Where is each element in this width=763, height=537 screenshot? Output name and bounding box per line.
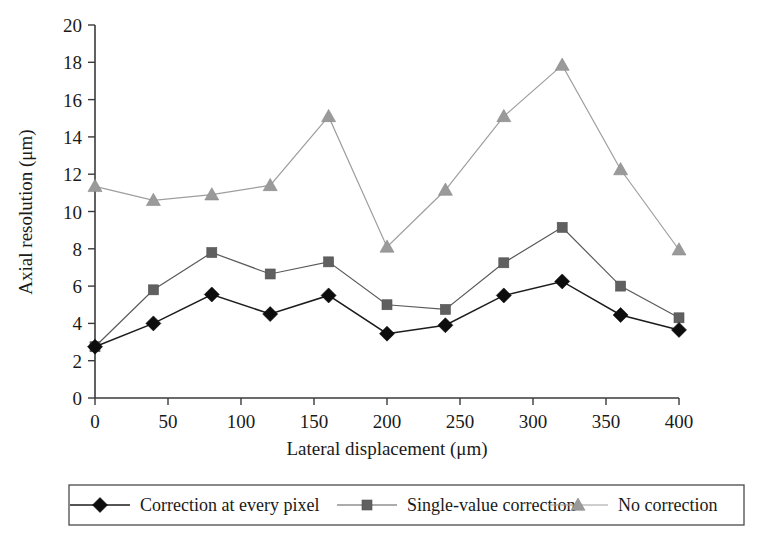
y-tick-label: 8 xyxy=(73,239,83,260)
x-tick-label: 50 xyxy=(159,411,178,432)
square-data-marker xyxy=(557,222,567,232)
chart-figure: 02468101214161820 0501001502002503003504… xyxy=(0,0,763,537)
y-tick-label: 2 xyxy=(73,351,83,372)
x-tick-label: 300 xyxy=(519,411,548,432)
square-data-marker xyxy=(440,304,450,314)
square-data-marker xyxy=(324,257,334,267)
x-tick-label: 100 xyxy=(227,411,256,432)
square-data-marker xyxy=(616,281,626,291)
legend-label: No correction xyxy=(618,495,717,515)
y-tick-label: 6 xyxy=(73,276,83,297)
square-data-marker xyxy=(382,300,392,310)
x-tick-label: 250 xyxy=(446,411,475,432)
x-tick-label: 400 xyxy=(665,411,694,432)
y-axis-title: Axial resolution (μm) xyxy=(15,129,37,294)
x-axis-title: Lateral displacement (μm) xyxy=(286,438,487,460)
y-tick-label: 14 xyxy=(63,127,83,148)
x-tick-label: 150 xyxy=(300,411,329,432)
square-data-marker xyxy=(207,248,217,258)
y-tick-label: 20 xyxy=(63,15,82,36)
square-data-marker xyxy=(674,313,684,323)
y-tick-label: 18 xyxy=(63,52,82,73)
square-data-marker xyxy=(148,285,158,295)
y-tick-label: 0 xyxy=(73,388,83,409)
square-data-marker xyxy=(362,500,372,510)
square-data-marker xyxy=(499,258,509,268)
line-chart-canvas: 02468101214161820 0501001502002503003504… xyxy=(0,0,763,537)
legend-label: Correction at every pixel xyxy=(140,495,319,515)
y-tick-label: 10 xyxy=(63,202,82,223)
y-tick-label: 16 xyxy=(63,90,82,111)
x-tick-label: 0 xyxy=(90,411,100,432)
x-tick-label: 350 xyxy=(592,411,621,432)
square-data-marker xyxy=(265,269,275,279)
y-tick-label: 4 xyxy=(73,313,83,334)
y-tick-label: 12 xyxy=(63,164,82,185)
x-tick-label: 200 xyxy=(373,411,402,432)
